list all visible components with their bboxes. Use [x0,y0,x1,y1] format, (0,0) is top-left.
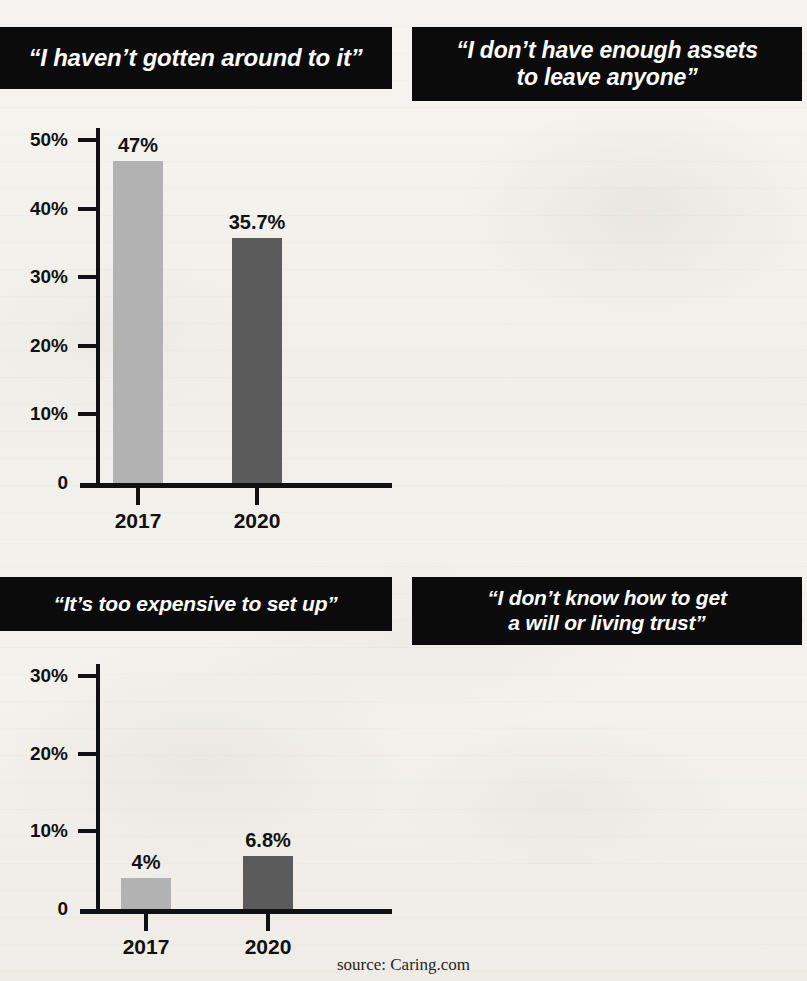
y-axis-tick-label: 30% [0,665,68,687]
y-axis-tick-label: 10% [0,403,68,425]
x-axis-tick [136,488,140,505]
chart-grid: “I haven’t gotten around to it” 010%20%3… [0,0,807,981]
y-axis-tick [78,207,98,211]
chart-panel-1: “I haven’t gotten around to it” 010%20%3… [0,0,403,566]
x-axis-label-2020: 2020 [234,509,281,533]
bar-2017 [113,161,163,483]
chart-panel-4: “I don’t know how to get a will or livin… [403,566,807,981]
x-axis-tick [255,488,259,505]
chart-title-banner-4: “I don’t know how to get a will or livin… [413,578,801,644]
bar-2020 [243,856,293,909]
y-axis-tick [78,412,98,416]
chart-title-text-2: “I don’t have enough assets to leave any… [446,37,768,91]
chart-title-banner-2: “I don’t have enough assets to leave any… [413,28,801,100]
y-axis-tick-label: 10% [0,820,68,842]
y-axis-tick-label: 20% [0,743,68,765]
y-axis-tick [78,829,98,833]
chart-title-line-2: a will or living trust” [487,611,726,636]
chart-plot-area-3: 010%20%30%4%20176.8%2020 [16,654,396,954]
chart-title-line-2: to leave anyone” [456,64,758,91]
chart-title-line-1: “I don’t know how to get [487,586,726,611]
y-axis-tick-label: 0 [0,472,68,494]
y-axis-tick-label: 30% [0,266,68,288]
y-axis-line [96,128,100,483]
y-axis-tick [78,752,98,756]
y-axis-tick [78,344,98,348]
bar-value-label-2020: 35.7% [229,211,286,234]
y-axis-tick [78,275,98,279]
x-axis-tick [144,914,148,931]
bar-value-label-2017: 47% [118,134,158,157]
x-axis-tick [266,914,270,931]
y-axis-tick-label: 20% [0,335,68,357]
bar-value-label-2020: 6.8% [245,829,291,852]
chart-title-text-1: “I haven’t gotten around to it” [18,44,372,72]
chart-title-banner-1: “I haven’t gotten around to it” [0,28,391,88]
source-note: source: Caring.com [0,955,807,975]
chart-plot-area-1: 010%20%30%40%50%47%201735.7%2020 [16,118,396,548]
y-axis-tick-label: 50% [0,129,68,151]
x-axis-line [80,483,392,488]
chart-title-text-3: “It’s too expensive to set up” [43,592,347,617]
chart-panel-3: “It’s too expensive to set up” 010%20%30… [0,566,403,981]
chart-title-banner-3: “It’s too expensive to set up” [0,578,391,630]
y-axis-tick [78,138,98,142]
chart-title-text-4: “I don’t know how to get a will or livin… [477,586,736,636]
chart-panel-2: “I don’t have enough assets to leave any… [403,0,807,566]
x-axis-line [80,909,392,914]
bar-2017 [121,878,171,909]
y-axis-tick [78,674,98,678]
x-axis-label-2017: 2017 [115,509,162,533]
y-axis-tick-label: 0 [0,898,68,920]
chart-title-line-1: “I don’t have enough assets [456,37,758,64]
y-axis-line [96,664,100,909]
bar-2020 [232,238,282,483]
y-axis-tick-label: 40% [0,198,68,220]
bar-value-label-2017: 4% [132,851,161,874]
